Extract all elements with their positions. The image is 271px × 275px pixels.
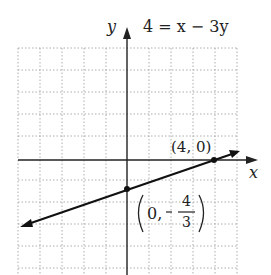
svg-text:0,: 0, — [147, 204, 162, 223]
graph-line — [20, 150, 240, 227]
y-axis-label: y — [106, 17, 117, 36]
svg-text:3: 3 — [182, 214, 191, 230]
y-axis — [123, 27, 131, 275]
point-y-intercept — [124, 186, 130, 192]
point-x-intercept — [211, 157, 217, 163]
svg-text:4: 4 — [182, 193, 191, 209]
x-intercept-label: (4, 0) — [171, 138, 211, 156]
x-axis-label: x — [249, 163, 258, 182]
equation-label: 4 = x − 3y — [143, 17, 229, 36]
graph: y 4 = x − 3y x (4, 0) 0, 4 3 — [0, 0, 271, 275]
